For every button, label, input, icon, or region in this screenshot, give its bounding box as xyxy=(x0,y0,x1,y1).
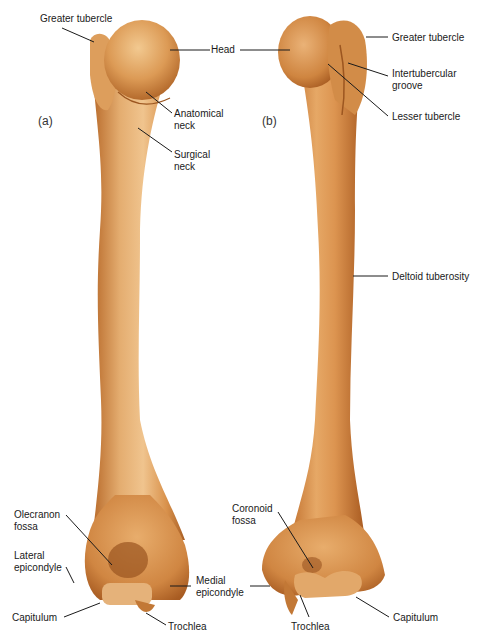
humerus-posterior xyxy=(262,16,385,615)
panel-label-b: (b) xyxy=(262,114,277,128)
panel-label-a: (a) xyxy=(38,114,53,128)
humerus-illustration xyxy=(0,0,482,635)
humerus-figure: (a) (b) Greater tubercle Head Anatomical… xyxy=(0,0,482,635)
label-surgical-neck: Surgical neck xyxy=(174,149,210,173)
label-medial-epicondyle: Medial epicondyle xyxy=(196,575,244,599)
label-anatomical-neck: Anatomical neck xyxy=(174,108,223,132)
label-capitulum-b: Capitulum xyxy=(393,612,438,624)
label-lateral-epicondyle: Lateral epicondyle xyxy=(14,550,62,574)
label-greater-tubercle-b: Greater tubercle xyxy=(392,32,464,44)
label-trochlea-b: Trochlea xyxy=(291,621,330,633)
label-intertubercular-groove: Intertubercular groove xyxy=(392,68,456,92)
label-trochlea-a: Trochlea xyxy=(168,621,207,633)
label-capitulum-a: Capitulum xyxy=(12,612,57,624)
label-coronoid-fossa: Coronoid fossa xyxy=(232,503,273,527)
label-head: Head xyxy=(211,44,235,56)
label-deltoid-tuberosity: Deltoid tuberosity xyxy=(392,271,469,283)
label-greater-tubercle-a: Greater tubercle xyxy=(40,13,112,25)
label-lesser-tubercle: Lesser tubercle xyxy=(392,111,460,123)
label-olecranon-fossa: Olecranon fossa xyxy=(14,509,60,533)
